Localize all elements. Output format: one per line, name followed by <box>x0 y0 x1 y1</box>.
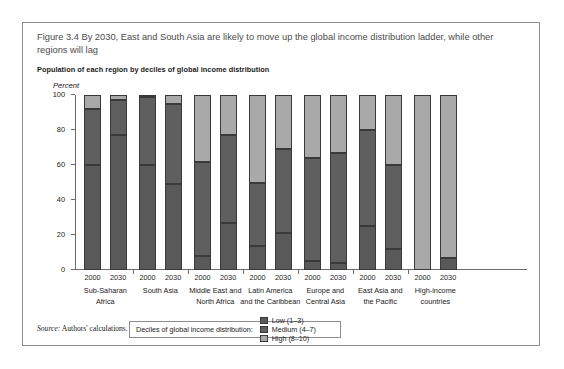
x-axis-year-label: 2000 <box>139 273 155 282</box>
figure-screenshot: Figure 3.4 By 2030, East and South Asia … <box>0 0 564 369</box>
x-axis-region-line: East Asia and <box>358 286 403 297</box>
bar-segment-medium <box>275 149 292 233</box>
legend-label-high: High (8–10) <box>272 334 310 343</box>
y-axis-tick: 80 <box>71 129 75 130</box>
bar-segment-low <box>440 258 457 270</box>
stacked-bar <box>304 95 321 270</box>
bar-segment-medium <box>385 165 402 249</box>
bar-segment-medium <box>330 153 347 263</box>
x-axis-region-label: East Asia andthe Pacific <box>358 286 403 307</box>
bar-segment-medium <box>139 97 156 165</box>
figure-title: Figure 3.4 By 2030, East and South Asia … <box>37 31 519 57</box>
stacked-bar <box>194 95 211 270</box>
bar-segment-medium <box>249 183 266 246</box>
plot-area: 020406080100 <box>75 95 527 270</box>
stacked-bar <box>110 95 127 270</box>
bar-segment-low <box>249 246 266 271</box>
stacked-bar <box>359 95 376 270</box>
y-axis-tick-label: 80 <box>57 125 65 134</box>
bar-segment-low <box>139 165 156 270</box>
legend-items: Low (1–3)Medium (4–7)High (8–10) <box>260 316 334 343</box>
legend-swatch-low <box>260 317 268 324</box>
bar-segment-high <box>84 95 101 109</box>
stacked-bar <box>385 95 402 270</box>
x-axis-year-label: 2000 <box>84 273 100 282</box>
bar-segment-high <box>220 95 237 135</box>
bar-segment-high <box>385 95 402 165</box>
y-axis-tick: 0 <box>71 269 75 270</box>
y-axis-tick: 20 <box>71 234 75 235</box>
x-axis-region-label: Latin Americaand the Caribbean <box>240 286 300 307</box>
x-axis-region-line: High-income <box>415 286 456 297</box>
y-axis-tick-label: 60 <box>57 160 65 169</box>
y-axis-tick-label: 100 <box>53 90 65 99</box>
x-axis-year-label: 2030 <box>330 273 346 282</box>
bar-segment-low <box>359 226 376 270</box>
bar-segment-low <box>220 223 237 270</box>
bar-segment-high <box>414 95 431 270</box>
legend: Deciles of global income distribution: L… <box>129 321 341 338</box>
x-axis-year-label: 2030 <box>385 273 401 282</box>
bar-segment-high <box>139 95 156 97</box>
y-axis-line <box>75 95 76 270</box>
stacked-bar <box>139 95 156 270</box>
bar-segment-high <box>165 95 182 104</box>
x-axis-region-line: Sub-Saharan <box>84 286 127 297</box>
bar-segment-medium <box>359 130 376 226</box>
bar-segment-medium <box>110 100 127 135</box>
stacked-bar <box>165 95 182 270</box>
bar-segment-high <box>304 95 321 158</box>
x-axis-region-label: High-incomecountries <box>415 286 456 307</box>
bar-segment-high <box>440 95 457 258</box>
x-axis-year-label: 2000 <box>359 273 375 282</box>
x-axis-region-label: Middle East andNorth Africa <box>189 286 241 307</box>
x-axis-region-line: and the Caribbean <box>240 297 300 308</box>
source-label: Source: <box>37 324 60 333</box>
x-axis-region-line: North Africa <box>189 297 241 308</box>
x-axis-year-label: 2000 <box>304 273 320 282</box>
x-axis-year-label: 2000 <box>249 273 265 282</box>
x-axis-region-line: countries <box>415 297 456 308</box>
x-axis-region-line: Middle East and <box>189 286 241 297</box>
bar-segment-low <box>165 184 182 270</box>
bar-segment-high <box>359 95 376 130</box>
stacked-bar <box>220 95 237 270</box>
bar-segment-low <box>84 165 101 270</box>
bar-segment-medium <box>304 158 321 261</box>
bar-segment-medium <box>220 135 237 223</box>
x-axis-year-label: 2000 <box>414 273 430 282</box>
x-axis-year-label: 2030 <box>165 273 181 282</box>
x-axis-year-label: 2030 <box>220 273 236 282</box>
y-axis-tick-label: 20 <box>57 230 65 239</box>
legend-item-high: High (8–10) <box>260 334 334 343</box>
stacked-bar <box>84 95 101 270</box>
x-axis-region-label: South Asia <box>143 286 178 297</box>
x-axis-year-label: 2030 <box>275 273 291 282</box>
bar-segment-high <box>249 95 266 183</box>
plot-inner: 020406080100 <box>75 95 527 270</box>
bar-segment-high <box>275 95 292 149</box>
y-axis-tick: 60 <box>71 164 75 165</box>
bar-segment-medium <box>165 104 182 185</box>
bar-segment-medium <box>84 109 101 165</box>
legend-item-low: Low (1–3) <box>260 316 316 325</box>
bar-segment-medium <box>194 162 211 257</box>
x-axis-labels: 20002030Sub-SaharanAfrica20002030South A… <box>75 273 527 315</box>
x-axis-region-line: Africa <box>84 297 127 308</box>
bar-segment-low <box>194 256 211 270</box>
x-axis-year-label: 2030 <box>440 273 456 282</box>
y-axis-tick-label: 0 <box>61 265 65 274</box>
x-axis-region-line: the Pacific <box>358 297 403 308</box>
stacked-bar <box>249 95 266 270</box>
bar-segment-low <box>385 249 402 270</box>
x-axis-region-line: Europe and <box>306 286 345 297</box>
x-axis-region-line: South Asia <box>143 286 178 297</box>
legend-swatch-medium <box>260 326 268 333</box>
stacked-bar <box>414 95 431 270</box>
x-axis-year-label: 2030 <box>110 273 126 282</box>
y-axis-tick: 100 <box>71 94 75 95</box>
stacked-bar <box>330 95 347 270</box>
y-axis-tick-label: 40 <box>57 195 65 204</box>
bar-segment-low <box>110 135 127 270</box>
bar-segment-low <box>330 263 347 270</box>
